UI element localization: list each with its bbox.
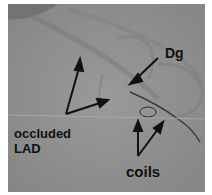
dg-label: Dg [165, 46, 184, 60]
occluded-label-line1: occluded [14, 126, 71, 141]
angiogram-drawing [8, 4, 205, 192]
coils-label: coils [126, 164, 160, 179]
angiogram-image: Dg occluded LAD coils [8, 4, 205, 192]
occluded-lad-label: occluded LAD [14, 126, 71, 156]
occluded-label-line2: LAD [14, 141, 71, 156]
